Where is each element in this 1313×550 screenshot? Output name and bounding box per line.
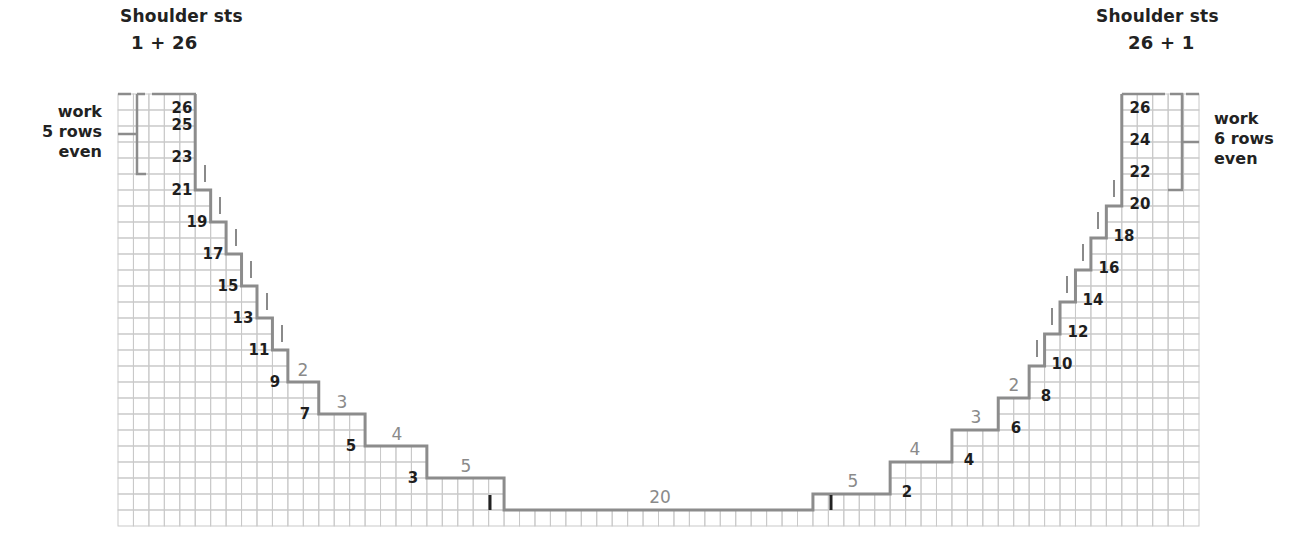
grid-cell bbox=[1106, 414, 1121, 430]
grid-cell bbox=[133, 222, 148, 238]
grid-cell bbox=[1091, 238, 1106, 254]
grid-cell bbox=[1029, 478, 1044, 494]
grid-cell bbox=[1075, 366, 1090, 382]
grid-cell bbox=[242, 478, 257, 494]
grid-cell bbox=[133, 398, 148, 414]
grid-cell bbox=[118, 222, 133, 238]
grid-cell bbox=[1137, 398, 1152, 414]
grid-cell bbox=[118, 430, 133, 446]
grid-cell bbox=[1153, 334, 1168, 350]
grid-cell bbox=[180, 366, 195, 382]
grid-cell bbox=[1091, 430, 1106, 446]
grid-cell bbox=[1075, 430, 1090, 446]
grid-cell bbox=[1184, 382, 1199, 398]
row-number-label: 23 bbox=[172, 148, 193, 166]
grid-cell bbox=[983, 462, 998, 478]
grid-cell bbox=[1168, 398, 1183, 414]
grid-cell bbox=[195, 430, 210, 446]
grid-cell bbox=[1075, 382, 1090, 398]
grid-cell bbox=[1184, 302, 1199, 318]
grid-cell bbox=[211, 382, 226, 398]
grid-cell bbox=[1153, 126, 1168, 142]
grid-cell bbox=[149, 478, 164, 494]
grid-cell bbox=[195, 446, 210, 462]
grid-cell bbox=[473, 494, 488, 510]
grid-cell bbox=[1106, 494, 1121, 510]
grid-cell bbox=[1168, 286, 1183, 302]
row-number-label: 12 bbox=[1068, 323, 1089, 341]
grid-cell bbox=[1106, 286, 1121, 302]
grid-cell bbox=[226, 366, 241, 382]
grid-cell bbox=[211, 430, 226, 446]
grid-cell bbox=[226, 398, 241, 414]
grid-cell bbox=[1060, 430, 1075, 446]
grid-cell bbox=[257, 462, 272, 478]
grid-cell bbox=[1122, 366, 1137, 382]
bind-off-count-label: 3 bbox=[971, 407, 982, 427]
grid-cell bbox=[164, 206, 179, 222]
bind-off-count-label: 2 bbox=[1009, 375, 1020, 395]
grid-cell bbox=[1045, 414, 1060, 430]
grid-cell bbox=[180, 462, 195, 478]
grid-cell bbox=[334, 510, 349, 526]
grid-cell bbox=[133, 302, 148, 318]
grid-cell bbox=[936, 510, 951, 526]
grid-cell bbox=[288, 494, 303, 510]
grid-cell bbox=[998, 462, 1013, 478]
grid-cell bbox=[242, 494, 257, 510]
grid-cell bbox=[458, 478, 473, 494]
grid-cell bbox=[149, 350, 164, 366]
neckline-chart: 2625232119171513119753262422201816141210… bbox=[0, 0, 1313, 550]
grid-cell bbox=[164, 318, 179, 334]
grid-cell bbox=[906, 462, 921, 478]
grid-cell bbox=[180, 318, 195, 334]
grid-cell bbox=[442, 510, 457, 526]
grid-cell bbox=[133, 494, 148, 510]
grid-cell bbox=[1153, 142, 1168, 158]
grid-cell bbox=[272, 446, 287, 462]
grid-cell bbox=[1184, 126, 1199, 142]
grid-cell bbox=[1137, 366, 1152, 382]
grid-cell bbox=[1137, 286, 1152, 302]
grid-cell bbox=[1106, 478, 1121, 494]
grid-cell bbox=[1153, 254, 1168, 270]
grid-cell bbox=[1122, 302, 1137, 318]
grid-cell bbox=[1153, 286, 1168, 302]
grid-cell bbox=[381, 510, 396, 526]
grid-cell bbox=[334, 414, 349, 430]
grid-cell bbox=[952, 430, 967, 446]
grid-cell bbox=[581, 510, 596, 526]
grid-cell bbox=[365, 494, 380, 510]
grid-cell bbox=[1168, 302, 1183, 318]
grid-cell bbox=[149, 206, 164, 222]
grid-cell bbox=[1106, 318, 1121, 334]
grid-cell bbox=[767, 510, 782, 526]
grid-cell bbox=[365, 478, 380, 494]
row-number-label: 18 bbox=[1114, 227, 1135, 245]
grid-cell bbox=[149, 302, 164, 318]
grid-cell bbox=[566, 510, 581, 526]
grid-cell bbox=[118, 174, 133, 190]
grid-cell bbox=[1122, 510, 1137, 526]
grid-cell bbox=[921, 510, 936, 526]
grid-cell bbox=[1045, 478, 1060, 494]
grid-cell bbox=[118, 350, 133, 366]
row-number-label: 17 bbox=[203, 245, 224, 263]
grid-cell bbox=[1153, 478, 1168, 494]
grid-cell bbox=[149, 142, 164, 158]
grid-cell bbox=[226, 350, 241, 366]
grid-cell bbox=[1106, 510, 1121, 526]
grid-cell bbox=[149, 366, 164, 382]
grid-cell bbox=[1184, 414, 1199, 430]
row-number-label: 24 bbox=[1130, 131, 1151, 149]
grid-cell bbox=[118, 318, 133, 334]
grid-cell bbox=[149, 494, 164, 510]
grid-cell bbox=[1091, 414, 1106, 430]
grid-cell bbox=[1122, 478, 1137, 494]
grid-cell bbox=[350, 462, 365, 478]
grid-cell bbox=[1184, 462, 1199, 478]
grid-cell bbox=[288, 478, 303, 494]
grid-cell bbox=[1045, 430, 1060, 446]
grid-cell bbox=[133, 350, 148, 366]
row-number-label: 11 bbox=[249, 341, 270, 359]
